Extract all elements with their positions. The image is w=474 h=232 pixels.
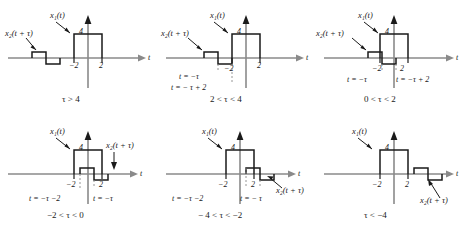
time-marker-1: t = −τ — [347, 76, 367, 84]
t-axis-arrowhead — [446, 171, 454, 178]
panel-minus4-lt-tau-lt-minus2: x₁(t) x₂(t + τ) 4 −2 2 t t = −τ −2 t = −… — [158, 116, 316, 232]
x2-label: x₂(t + τ) — [161, 29, 189, 38]
panel-0-lt-tau-lt-2: x₁(t) x₂(t + τ) 4 −2 2 t t = −τ t = −τ +… — [316, 0, 474, 116]
x1-leader-arrowhead — [65, 28, 71, 34]
amplitude-axis-arrowhead — [237, 131, 244, 140]
amplitude-axis-arrowhead — [243, 15, 250, 24]
condition-label: −2 < τ < 0 — [47, 211, 84, 220]
t-axis-label: t — [306, 54, 308, 62]
condition-label: − 4 < τ < −2 — [198, 211, 242, 220]
amplitude-axis-arrowhead — [391, 15, 398, 24]
panel-tau-gt-4: x₁(t) x₂(t + τ) 4 −2 2 t τ > 4 — [0, 0, 158, 116]
x1-label: x₁(t) — [358, 11, 373, 20]
x2-label: x₂(t + τ) — [5, 29, 33, 38]
x1-label: x₁(t) — [50, 11, 65, 20]
convolution-overlap-figure: x₁(t) x₂(t + τ) 4 −2 2 t τ > 4 x₁(t) x₂(… — [0, 0, 474, 232]
tick-label-minus2: −2 — [372, 181, 381, 189]
time-marker-1: t = −τ −2 — [29, 195, 60, 203]
tick-label-minus2: −2 — [218, 181, 227, 189]
x1-leader-arrowhead — [217, 144, 223, 150]
condition-label: 0 < τ < 2 — [364, 95, 396, 104]
x2-label: x₂(t + τ) — [106, 141, 134, 150]
condition-label: 2 < τ < 4 — [210, 95, 242, 104]
x1-label: x₁(t) — [352, 127, 367, 136]
t-axis-arrowhead — [130, 171, 138, 178]
tick-label-2: 2 — [99, 181, 103, 189]
condition-label: τ < −4 — [364, 211, 387, 220]
x2-leader-arrowhead — [111, 162, 117, 170]
t-axis-label: t — [298, 170, 300, 178]
amplitude-label: 4 — [79, 144, 83, 152]
tick-label-2: 2 — [405, 181, 409, 189]
tick-label-2: 2 — [99, 62, 103, 70]
amplitude-label: 4 — [231, 144, 235, 152]
x1-label: x₁(t) — [202, 127, 217, 136]
t-axis-arrowhead — [138, 55, 146, 62]
time-marker-2: t = −τ + 2 — [396, 76, 429, 84]
amplitude-axis-arrowhead — [391, 131, 398, 140]
amplitude-label: 4 — [385, 28, 389, 36]
tick-label-2: 2 — [400, 65, 404, 73]
t-axis-arrowhead — [296, 55, 304, 62]
time-marker-2: t = −τ — [93, 195, 113, 203]
x1-leader-arrowhead — [223, 28, 229, 34]
amplitude-axis-arrowhead — [85, 15, 92, 24]
time-marker-1: t = −τ — [179, 73, 199, 81]
panel-6-plot — [316, 116, 474, 232]
time-marker-1: t = −τ −2 — [172, 195, 203, 203]
t-axis-label: t — [456, 54, 458, 62]
x1-label: x₁(t) — [210, 11, 225, 20]
time-marker-2: t = − τ + 2 — [171, 84, 206, 92]
x2-label: x₂(t + τ) — [276, 186, 304, 195]
amplitude-label: 4 — [237, 28, 241, 36]
t-axis-label: t — [140, 170, 142, 178]
x1-label: x₁(t) — [50, 127, 65, 136]
panel-2-lt-tau-lt-4: x₁(t) x₂(t + τ) 4 −2 2 t t = −τ t = − τ … — [158, 0, 316, 116]
tick-label-minus2: −2 — [66, 181, 75, 189]
time-marker-2: t = − τ — [240, 195, 262, 203]
x1-leader-arrowhead — [373, 28, 379, 34]
t-axis-label: t — [456, 170, 458, 178]
x1-leader-arrowhead — [367, 144, 373, 150]
amplitude-label: 4 — [385, 144, 389, 152]
panel-tau-lt-minus4: x₁(t) x₂(t + τ) 4 −2 2 t τ < −4 — [316, 116, 474, 232]
x2-leader-arrowhead — [31, 45, 37, 50]
amplitude-axis-arrowhead — [85, 131, 92, 140]
tick-label-minus2: −2 — [372, 65, 381, 73]
tick-label-minus2: −2 — [224, 65, 233, 73]
x1-leader-arrowhead — [65, 144, 71, 150]
x2-label: x₂(t + τ) — [420, 196, 448, 205]
t-axis-label: t — [148, 54, 150, 62]
t-axis-arrowhead — [446, 55, 454, 62]
tick-label-2: 2 — [257, 62, 261, 70]
condition-label: τ > 4 — [62, 95, 80, 104]
panel-minus2-lt-tau-lt-0: x₁(t) x₂(t + τ) 4 −2 2 t t = −τ −2 t = −… — [0, 116, 158, 232]
amplitude-label: 4 — [79, 28, 83, 36]
tick-label-minus2: −2 — [69, 62, 78, 70]
tick-label-2: 2 — [251, 181, 255, 189]
t-axis-arrowhead — [288, 171, 296, 178]
x2-label: x₂(t + τ) — [316, 29, 344, 38]
